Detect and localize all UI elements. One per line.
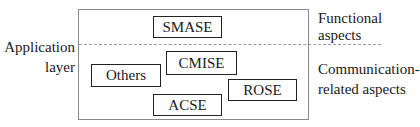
functional-label: Functional bbox=[318, 10, 382, 26]
layer-label: layer bbox=[0, 59, 75, 75]
functional-aspects-label: aspects bbox=[318, 27, 361, 43]
others-box: Others bbox=[91, 64, 161, 87]
application-label: Application bbox=[0, 39, 75, 55]
smase-box: SMASE bbox=[153, 16, 222, 38]
rose-box: ROSE bbox=[228, 79, 297, 101]
cmise-box: CMISE bbox=[166, 51, 237, 75]
acse-box: ACSE bbox=[153, 94, 222, 116]
communication-label: Communication- bbox=[318, 61, 420, 77]
related-aspects-label: related aspects bbox=[318, 81, 406, 97]
aspect-divider-dashed-line bbox=[79, 44, 381, 45]
